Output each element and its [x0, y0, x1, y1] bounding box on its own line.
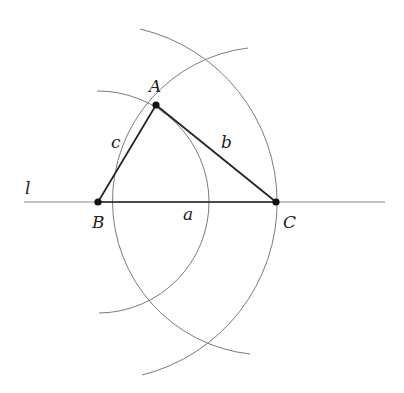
label-line-l: l: [25, 178, 30, 198]
label-A: A: [147, 76, 161, 96]
construction-diagram: A B C a b c l: [0, 0, 404, 393]
arc-center-C-radius-b: [112, 48, 250, 354]
side-b: [156, 105, 276, 202]
label-side-b: b: [221, 132, 232, 152]
label-B: B: [91, 212, 105, 232]
side-c: [98, 105, 156, 202]
point-B: [94, 198, 101, 205]
label-side-c: c: [111, 132, 121, 152]
diagram-canvas: A B C a b c l: [0, 0, 404, 393]
point-A: [152, 101, 159, 108]
label-side-a: a: [183, 204, 193, 224]
label-C: C: [283, 212, 296, 232]
point-C: [272, 198, 279, 205]
